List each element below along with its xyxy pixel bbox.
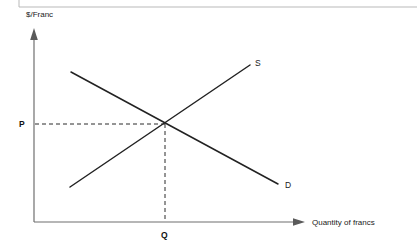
equilibrium-price-label: P <box>19 119 25 129</box>
equilibrium-quantity-label: Q <box>161 230 168 240</box>
supply-demand-chart: $/Franc Quantity of francs S D P Q <box>0 0 417 252</box>
figure-canvas: $/Franc Quantity of francs S D P Q <box>0 0 417 252</box>
demand-curve <box>71 72 278 184</box>
x-axis-label: Quantity of francs <box>312 218 375 227</box>
x-axis-arrow-icon <box>293 218 305 226</box>
y-axis-arrow-icon <box>30 28 38 40</box>
supply-curve <box>70 65 250 187</box>
y-axis-label: $/Franc <box>26 10 53 19</box>
demand-curve-label: D <box>285 180 291 190</box>
supply-curve-label: S <box>255 58 261 68</box>
